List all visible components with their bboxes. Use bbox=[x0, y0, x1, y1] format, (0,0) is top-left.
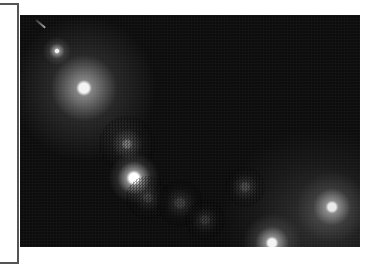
light-spot-faint-center-3 bbox=[225, 167, 265, 207]
light-spot-bright-right bbox=[297, 172, 360, 242]
light-streak bbox=[35, 19, 45, 28]
image-frame-bracket bbox=[0, 3, 19, 264]
night-sky-photo bbox=[20, 15, 360, 247]
light-spot-faint-center-2 bbox=[185, 200, 225, 240]
